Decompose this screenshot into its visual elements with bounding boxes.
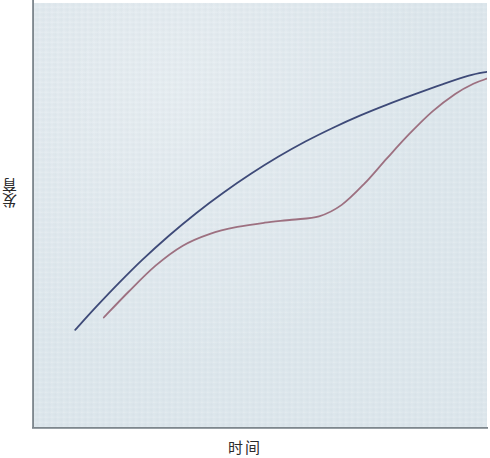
- line-series-stepped-development: [104, 79, 487, 318]
- y-axis-label: 发育: [2, 178, 28, 208]
- chart-figure: 发育 时间: [0, 0, 490, 458]
- plot-panel: [33, 3, 487, 428]
- line-series-continuous-development: [75, 72, 487, 330]
- curve-layer: [33, 3, 487, 428]
- x-axis-label: 时间: [0, 436, 490, 457]
